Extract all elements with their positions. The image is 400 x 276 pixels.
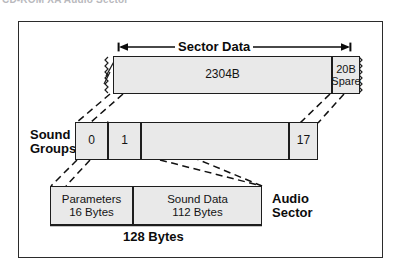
sound-group-cell-17: 17 bbox=[289, 122, 318, 160]
sound-group-cell-17-label: 17 bbox=[297, 134, 310, 147]
sound-group-cell-1: 1 bbox=[108, 122, 141, 160]
spare-block-line2: Spare bbox=[331, 75, 360, 87]
audio-sector-label-line1: Audio bbox=[272, 191, 309, 206]
parameters-block-line1: Parameters bbox=[62, 193, 121, 206]
audio-sector-label-line2: Sector bbox=[272, 205, 312, 220]
parameters-block: Parameters 16 Bytes bbox=[50, 186, 133, 225]
sound-group-cell-1-label: 1 bbox=[121, 134, 128, 147]
sound-data-block-line1: Sound Data bbox=[167, 193, 228, 206]
figure-canvas: CD-ROM XA Audio Sector bbox=[0, 0, 400, 276]
sector-data-block-label: 2304B bbox=[205, 68, 240, 81]
parameters-block-line2: 16 Bytes bbox=[69, 206, 114, 219]
sound-data-block-line2: 112 Bytes bbox=[172, 206, 222, 219]
sound-groups-label-line2: Groups bbox=[30, 141, 76, 156]
sound-group-cell-0: 0 bbox=[75, 122, 108, 160]
bottom-caption: 128 Bytes bbox=[123, 229, 184, 244]
sound-groups-label-line1: Sound bbox=[30, 127, 70, 142]
spare-block-line1: 20B bbox=[336, 63, 356, 75]
sector-data-label: Sector Data bbox=[175, 39, 253, 54]
spare-block: 20B Spare bbox=[332, 56, 360, 94]
sound-group-cell-0-label: 0 bbox=[88, 134, 95, 147]
expansion-lines-sector-to-groups bbox=[76, 94, 344, 123]
sound-data-block: Sound Data 112 Bytes bbox=[133, 186, 262, 225]
sector-data-block: 2304B bbox=[113, 56, 332, 94]
sound-group-cell-middle bbox=[141, 122, 289, 160]
